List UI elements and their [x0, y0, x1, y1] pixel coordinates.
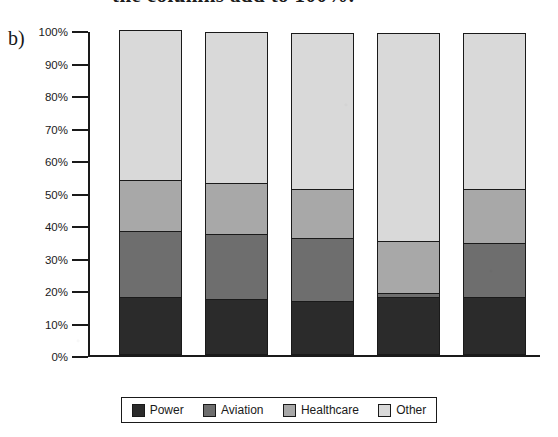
- y-axis-tick: [72, 291, 88, 293]
- y-axis-tick-label: 70%: [45, 124, 68, 136]
- y-axis-tick-label: 20%: [45, 286, 68, 298]
- y-axis-tick-label: 10%: [45, 319, 68, 331]
- y-axis-tick-label: 100%: [39, 26, 68, 38]
- bar-segment-other: [292, 34, 353, 189]
- y-axis-tick-label: 50%: [45, 189, 68, 201]
- bar-segment-aviation: [120, 231, 181, 297]
- legend-label: Power: [150, 403, 184, 417]
- x-axis-line: [88, 355, 540, 357]
- bar-segment-other: [464, 34, 525, 189]
- y-axis-tick-label: 0%: [51, 351, 68, 363]
- figure-label: b): [8, 27, 25, 50]
- y-axis-tick: [72, 161, 88, 163]
- chart-legend: PowerAviationHealthcareOther: [121, 397, 437, 423]
- legend-item-aviation: Aviation: [203, 403, 263, 417]
- legend-label: Other: [396, 403, 426, 417]
- bar-segment-healthcare: [378, 241, 439, 293]
- bar-segment-power: [292, 301, 353, 354]
- y-axis-tick: [72, 31, 88, 33]
- legend-item-other: Other: [378, 403, 426, 417]
- cropped-caption-text: the columns add to 100%.: [112, 0, 354, 8]
- stacked-bar: 2014: [205, 32, 268, 355]
- y-axis-line: [88, 32, 90, 357]
- bar-segment-power: [464, 297, 525, 354]
- bar-segment-aviation: [464, 243, 525, 298]
- cropped-caption-strip: the columns add to 100%.: [0, 0, 558, 13]
- y-axis-tick: [72, 64, 88, 66]
- bar-segment-power: [120, 297, 181, 354]
- y-axis-tick-label: 30%: [45, 254, 68, 266]
- legend-swatch-other: [378, 404, 391, 417]
- legend-label: Aviation: [221, 403, 263, 417]
- y-axis-tick: [72, 356, 88, 358]
- bar-segment-other: [206, 33, 267, 183]
- y-axis-tick: [72, 259, 88, 261]
- bar-segment-healthcare: [292, 189, 353, 237]
- chart-plot-area: 100%90%80%70%60%50%40%30%20%10%0% 201520…: [88, 32, 540, 357]
- bar-segment-healthcare: [206, 183, 267, 235]
- legend-swatch-healthcare: [283, 404, 296, 417]
- stacked-bar: 2012: [377, 33, 440, 355]
- bar-segment-healthcare: [120, 180, 181, 232]
- y-axis-tick-label: 80%: [45, 91, 68, 103]
- y-axis-tick-label: 90%: [45, 59, 68, 71]
- stacked-bar: 2013: [291, 33, 354, 355]
- legend-label: Healthcare: [301, 403, 359, 417]
- y-axis-tick: [72, 194, 88, 196]
- bar-segment-power: [206, 299, 267, 354]
- legend-swatch-aviation: [203, 404, 216, 417]
- legend-item-healthcare: Healthcare: [283, 403, 359, 417]
- y-axis-tick-label: 60%: [45, 156, 68, 168]
- y-axis-tick: [72, 96, 88, 98]
- bar-segment-other: [378, 34, 439, 241]
- y-axis-tick: [72, 324, 88, 326]
- bar-segment-power: [378, 297, 439, 354]
- bar-segment-aviation: [206, 234, 267, 299]
- legend-swatch-power: [132, 404, 145, 417]
- stacked-bar: 2015: [119, 30, 182, 355]
- bar-segment-aviation: [292, 238, 353, 301]
- bar-segment-healthcare: [464, 189, 525, 242]
- stacked-bar: 2011: [463, 33, 526, 355]
- y-axis-tick: [72, 226, 88, 228]
- legend-item-power: Power: [132, 403, 184, 417]
- y-axis-tick: [72, 129, 88, 131]
- bar-segment-other: [120, 31, 181, 180]
- y-axis-tick-label: 40%: [45, 221, 68, 233]
